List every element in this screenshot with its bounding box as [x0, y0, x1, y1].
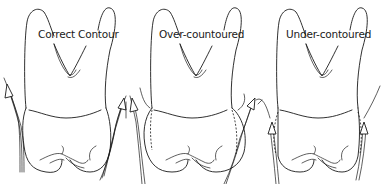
arrow-head-right: [247, 98, 255, 110]
arrow-head-left: [5, 84, 13, 98]
panel-correct-contour: Correct Contour: [0, 0, 128, 184]
panel-over-contoured: Over-countoured: [128, 0, 256, 184]
panel-label-correct-contour: Correct Contour: [38, 28, 119, 40]
tooth-contour-diagram: Correct Contour Over-c: [0, 0, 382, 184]
panel-under-contoured: Under-contoured: [256, 0, 382, 184]
panel-label-under-contoured: Under-contoured: [286, 28, 371, 40]
panel-label-over-contoured: Over-countoured: [159, 28, 244, 40]
